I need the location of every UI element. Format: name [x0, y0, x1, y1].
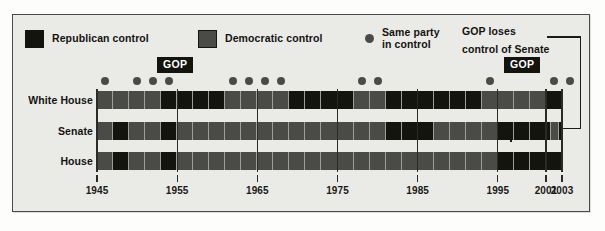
- gridline: [96, 89, 97, 172]
- bar-segment: [386, 152, 402, 170]
- bar-segment: [466, 152, 482, 170]
- bar-segment: [145, 152, 161, 170]
- bar-segment: [434, 122, 450, 140]
- axis-tick-label: 1945: [77, 185, 117, 196]
- same-party-dot-icon: [374, 77, 382, 85]
- bar-segment: [482, 122, 498, 140]
- gridline: [545, 89, 546, 172]
- bar-segment: [129, 91, 145, 109]
- bar-segment: [97, 152, 113, 170]
- bar-segment: [177, 91, 193, 109]
- row-label-white-house: White House: [19, 94, 93, 106]
- bar-segment: [177, 122, 193, 140]
- bar-segment: [370, 91, 386, 109]
- bar-segment: [177, 152, 193, 170]
- bar-segment: [338, 122, 354, 140]
- axis-tick-label: 2003: [542, 185, 582, 196]
- gridline: [257, 89, 258, 172]
- axis-tick-label: 1975: [318, 185, 358, 196]
- same-party-dot-icon: [261, 77, 269, 85]
- bar-segment: [241, 122, 257, 140]
- axis-tick-label: 1985: [398, 185, 438, 196]
- bar-row-house: [97, 152, 562, 170]
- bar-segment: [209, 152, 225, 170]
- bar-segment: [354, 122, 370, 140]
- bar-segment: [113, 152, 129, 170]
- bar-segment: [354, 152, 370, 170]
- same-party-dot-icon: [149, 77, 157, 85]
- bar-segment: [418, 91, 434, 109]
- bar-segment: [161, 91, 177, 109]
- bar-segment: [466, 91, 482, 109]
- bar-segment: [386, 91, 402, 109]
- bar-segment: [321, 152, 337, 170]
- bar-segment: [418, 152, 434, 170]
- bar-segment: [546, 91, 562, 109]
- bar-segment: [129, 122, 145, 140]
- chart-panel: Republican control Democratic control Sa…: [12, 14, 590, 212]
- bar-segment: [514, 122, 530, 140]
- bar-segment: [257, 122, 273, 140]
- bar-segment: [498, 122, 514, 140]
- bar-segment: [546, 152, 562, 170]
- same-party-dot-icon: [101, 77, 109, 85]
- bar-segment: [193, 122, 209, 140]
- bar-segment: [209, 122, 225, 140]
- gridline: [561, 89, 562, 172]
- same-party-dot-icon: [245, 77, 253, 85]
- bar-segment: [289, 91, 305, 109]
- same-party-dot-icon: [358, 77, 366, 85]
- bar-segment: [482, 152, 498, 170]
- axis-tick: [257, 175, 258, 182]
- bar-segment: [402, 122, 418, 140]
- bar-segment: [530, 91, 546, 109]
- axis-tick: [545, 175, 546, 182]
- bar-segment: [273, 91, 289, 109]
- bar-segment: [145, 122, 161, 140]
- same-party-dot-icon: [229, 77, 237, 85]
- bar-row-senate: [97, 122, 562, 140]
- bar-segment: [241, 152, 257, 170]
- same-party-dot-icon: [566, 77, 574, 85]
- bar-segment: [97, 122, 113, 140]
- chart-root: Republican control Democratic control Sa…: [0, 0, 605, 231]
- same-party-dot-icon: [165, 77, 173, 85]
- same-party-dot-icon: [133, 77, 141, 85]
- bar-segment: [193, 152, 209, 170]
- axis-tick: [561, 175, 562, 182]
- bar-segment: [530, 122, 546, 140]
- bar-segment: [225, 91, 241, 109]
- bar-segment: [161, 122, 177, 140]
- bar-segment: [386, 122, 402, 140]
- bar-segment: [514, 91, 530, 109]
- bar-segment: [402, 152, 418, 170]
- bar-segment: [145, 91, 161, 109]
- bar-segment: [450, 122, 466, 140]
- bar-segment: [129, 152, 145, 170]
- bar-segment: [450, 91, 466, 109]
- bar-segment: [434, 152, 450, 170]
- bar-segment: [338, 152, 354, 170]
- bar-segment: [551, 122, 559, 140]
- bar-segment: [370, 122, 386, 140]
- gridline: [417, 89, 418, 172]
- bar-segment: [434, 91, 450, 109]
- bar-row-white-house: [97, 91, 562, 109]
- bar-segment: [305, 122, 321, 140]
- bar-segment: [289, 122, 305, 140]
- bar-segment: [193, 91, 209, 109]
- bar-segment: [338, 91, 354, 109]
- bar-segment: [321, 122, 337, 140]
- bar-segment: [498, 152, 514, 170]
- gridline: [337, 89, 338, 172]
- axis-tick-label: 1955: [157, 185, 197, 196]
- bar-segment: [321, 91, 337, 109]
- bar-segment: [514, 152, 530, 170]
- bar-segment: [305, 152, 321, 170]
- bar-segment: [482, 91, 498, 109]
- same-party-dot-icon: [486, 77, 494, 85]
- bar-segment: [305, 91, 321, 109]
- axis-tick-label: 1995: [478, 185, 518, 196]
- axis-tick-label: 1965: [237, 185, 277, 196]
- bar-segment: [354, 91, 370, 109]
